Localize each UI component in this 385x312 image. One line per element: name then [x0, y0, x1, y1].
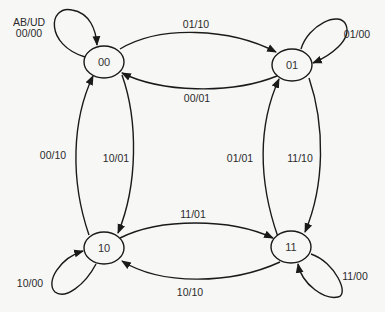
state-label-00: 00 — [98, 56, 110, 68]
transition-label-11-10: 10/10 — [177, 286, 203, 298]
transition-label-11-11: 11/00 — [342, 270, 368, 282]
transition-label-00-01: 01/10 — [183, 18, 209, 30]
transition-label-01-11: 11/10 — [287, 152, 313, 164]
transition-label-01-00: 00/01 — [184, 92, 210, 104]
edge-11-11 — [298, 254, 342, 297]
state-label-11: 11 — [285, 241, 296, 253]
edge-01-00 — [122, 73, 277, 89]
transition-label-10-11: 11/01 — [180, 208, 206, 220]
state-label-10: 10 — [98, 242, 110, 254]
edge-10-00 — [76, 76, 93, 235]
transition-label-00-00: 00/00 — [16, 27, 42, 39]
state-diagram: 00 01 10 11 AB/UD 00/00 01/10 00/01 01/0… — [0, 0, 385, 312]
edge-11-01 — [263, 79, 279, 237]
edge-10-11 — [120, 223, 273, 238]
edge-11-10 — [122, 261, 280, 279]
transition-label-11-01: 01/01 — [227, 152, 253, 164]
transition-label-10-10: 10/00 — [17, 277, 43, 289]
transition-label-00-10: 10/01 — [103, 152, 129, 164]
transition-label-10-00: 00/10 — [40, 149, 66, 161]
edge-00-01 — [120, 32, 276, 52]
state-label-01: 01 — [286, 59, 298, 71]
transition-label-01-01: 01/00 — [344, 28, 370, 40]
